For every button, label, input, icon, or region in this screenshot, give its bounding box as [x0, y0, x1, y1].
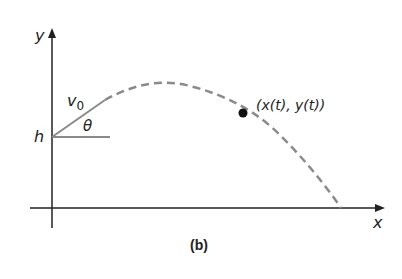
velocity-label: v0 — [67, 91, 84, 113]
x-axis-label: x — [372, 213, 383, 232]
height-label: h — [34, 127, 44, 146]
point-label: (x(t), y(t)) — [256, 97, 325, 113]
y-axis-label: y — [34, 26, 45, 45]
projectile-diagram: y x h v0 θ (x(t), y(t)) (b) — [0, 0, 402, 279]
trajectory-point — [239, 109, 248, 118]
angle-label: θ — [83, 117, 92, 135]
figure-caption: (b) — [190, 237, 208, 253]
